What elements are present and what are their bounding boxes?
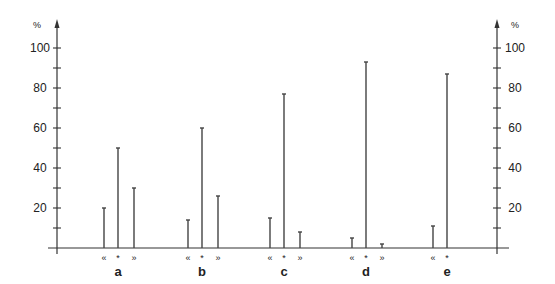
left-tick-label-100: 100 bbox=[30, 41, 50, 55]
group-label-d: d bbox=[362, 264, 370, 279]
marker-e-0: « bbox=[430, 253, 435, 263]
right-tick-label-100: 100 bbox=[505, 41, 525, 55]
right-tick-label-60: 60 bbox=[508, 121, 522, 135]
right-tick-label-20: 20 bbox=[508, 201, 522, 215]
left-axis-unit: % bbox=[33, 20, 41, 30]
chart: %20406080100%20406080100«*»a«*»b«*»c«*»d… bbox=[0, 0, 555, 284]
right-tick-label-40: 40 bbox=[508, 161, 522, 175]
marker-c-1: * bbox=[282, 253, 286, 263]
marker-a-2: » bbox=[131, 253, 136, 263]
marker-b-1: * bbox=[200, 253, 204, 263]
marker-d-0: « bbox=[349, 253, 354, 263]
marker-b-0: « bbox=[185, 253, 190, 263]
marker-b-2: » bbox=[215, 253, 220, 263]
marker-a-0: « bbox=[101, 253, 106, 263]
chart-canvas: %20406080100%20406080100«*»a«*»b«*»c«*»d… bbox=[0, 0, 555, 284]
left-tick-label-40: 40 bbox=[33, 161, 47, 175]
marker-d-1: * bbox=[364, 253, 368, 263]
left-axis-arrow-icon bbox=[55, 19, 60, 28]
left-tick-label-60: 60 bbox=[33, 121, 47, 135]
group-label-c: c bbox=[280, 264, 287, 279]
marker-e-1: * bbox=[445, 253, 449, 263]
marker-d-2: » bbox=[379, 253, 384, 263]
right-tick-label-80: 80 bbox=[508, 81, 522, 95]
group-label-e: e bbox=[443, 264, 450, 279]
right-axis-arrow-icon bbox=[495, 19, 500, 28]
marker-c-0: « bbox=[267, 253, 272, 263]
group-label-b: b bbox=[198, 264, 206, 279]
right-axis-unit: % bbox=[511, 20, 519, 30]
group-label-a: a bbox=[114, 264, 122, 279]
left-tick-label-80: 80 bbox=[33, 81, 47, 95]
left-tick-label-20: 20 bbox=[33, 201, 47, 215]
marker-a-1: * bbox=[116, 253, 120, 263]
marker-c-2: » bbox=[297, 253, 302, 263]
